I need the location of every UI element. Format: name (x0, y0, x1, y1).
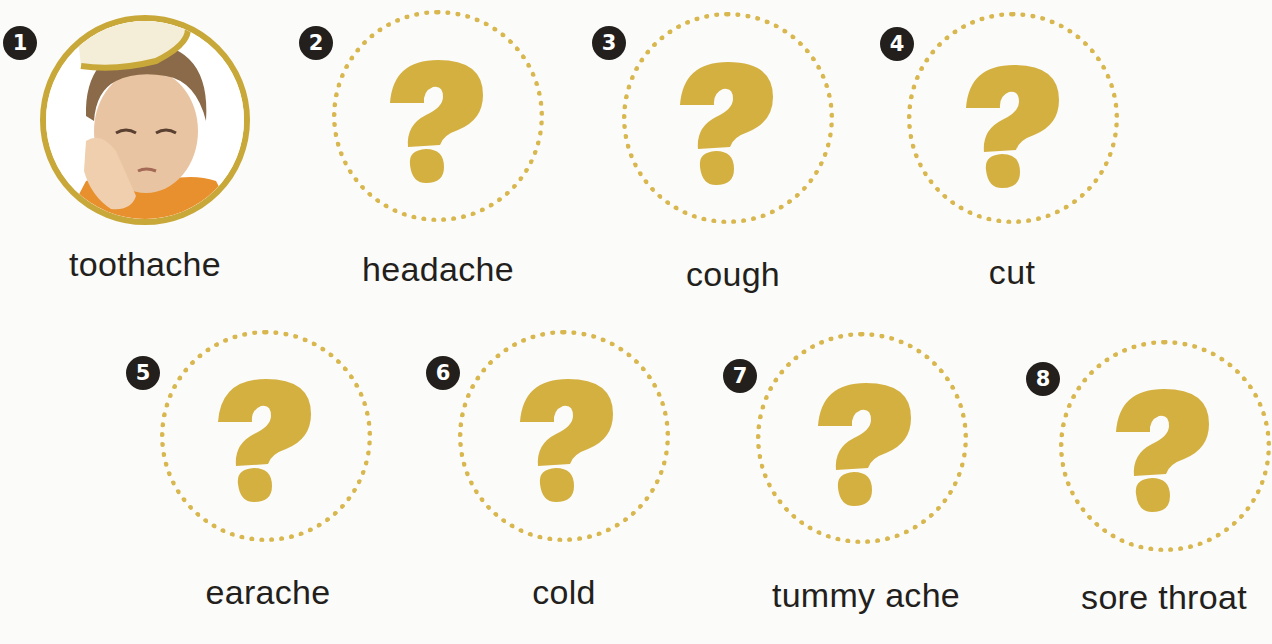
number-badge: 2 (299, 26, 333, 60)
number-badge: 4 (880, 27, 914, 61)
question-mark-icon (1114, 384, 1214, 514)
question-mark-icon (388, 55, 488, 185)
number-badge: 5 (126, 356, 160, 390)
number-badge: 6 (426, 356, 460, 390)
item-label: cough (686, 255, 780, 294)
question-mark-icon (678, 57, 778, 187)
item-label: tummy ache (772, 576, 960, 615)
item-label: toothache (69, 245, 221, 284)
item-label: cold (532, 573, 596, 612)
item-label: headache (362, 250, 514, 289)
boy-with-toothache-image (46, 21, 244, 219)
item-label: cut (989, 253, 1035, 292)
question-mark-icon (216, 374, 316, 504)
question-mark-icon (964, 60, 1064, 190)
question-mark-icon (816, 378, 916, 508)
toothache-photo (40, 15, 250, 225)
item-label: earache (206, 573, 331, 612)
number-badge: 8 (1026, 362, 1060, 396)
number-badge: 7 (723, 359, 757, 393)
number-badge: 1 (3, 26, 37, 60)
item-label: sore throat (1081, 578, 1247, 617)
number-badge: 3 (592, 26, 626, 60)
question-mark-icon (518, 374, 618, 504)
